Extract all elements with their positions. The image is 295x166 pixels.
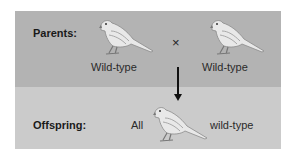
offspring-label: Offspring: xyxy=(33,119,86,131)
parent-right-phenotype: Wild-type xyxy=(202,61,248,73)
parents-label: Parents: xyxy=(33,27,77,39)
arrow-line-bottom xyxy=(177,80,179,94)
parent-left-phenotype: Wild-type xyxy=(91,61,137,73)
offspring-phenotype: wild-type xyxy=(210,119,253,131)
bird-icon-parent-right xyxy=(204,17,266,59)
bird-icon-offspring xyxy=(147,104,209,146)
bird-icon-parent-left xyxy=(93,17,155,59)
cross-symbol: × xyxy=(172,35,180,50)
offspring-prefix: All xyxy=(131,119,143,131)
arrow-down-icon xyxy=(174,94,182,101)
